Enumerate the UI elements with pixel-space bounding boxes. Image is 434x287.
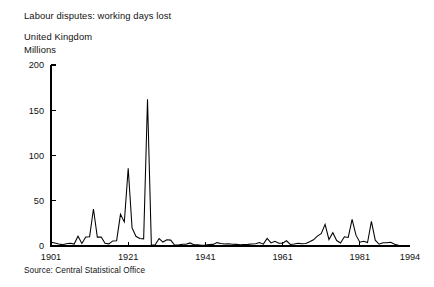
chart-figure: Labour disputes: working days lost Unite…	[0, 0, 434, 287]
x-axis-tick-label: 1961	[272, 252, 292, 262]
y-axis-tick-label: 100	[29, 151, 44, 161]
y-axis-tick-label: 150	[29, 106, 44, 116]
x-axis-tick-label: 1901	[41, 252, 61, 262]
x-axis-tick-label: 1981	[350, 252, 370, 262]
axis-tick-mark-group	[51, 65, 360, 246]
chart-source-note: Source: Central Statistical Office	[24, 266, 145, 275]
y-axis-tick-label: 50	[34, 196, 44, 206]
data-series-line	[51, 99, 410, 246]
y-axis-tick-label: 0	[39, 241, 44, 251]
x-axis-tick-label: 1921	[118, 252, 138, 262]
chart-plot-area: 200150100500 190119211941196119811994	[0, 0, 434, 287]
x-axis-tick-label-group: 190119211941196119811994	[41, 252, 420, 262]
y-axis-tick-label-group: 200150100500	[29, 60, 44, 251]
axis-frame-line	[51, 65, 410, 246]
x-axis-tick-label: 1941	[195, 252, 215, 262]
y-axis-tick-label: 200	[29, 60, 44, 70]
x-axis-tick-label: 1994	[400, 252, 420, 262]
